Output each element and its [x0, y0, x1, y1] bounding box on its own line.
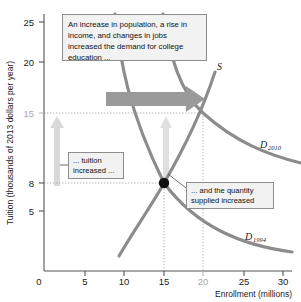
demand-1994-label-main: D	[244, 231, 253, 242]
x-tick-label-15: 15	[159, 276, 170, 287]
demand-shift-callout: An increase in population, a rise in inc…	[62, 14, 207, 61]
supply-demand-chart: 25 20 15 8 5 0 5 10 15 20 25 30 Enrollme…	[0, 0, 301, 302]
demand-1994-curve-label: D 1994	[244, 231, 267, 243]
x-tick-label-10: 10	[119, 276, 130, 287]
initial-equilibrium-dot	[159, 178, 169, 188]
demand-2010-curve-label: D 2010	[259, 139, 282, 151]
x-tick-label-20: 20	[198, 276, 209, 287]
x-tick-label-25: 25	[239, 276, 250, 287]
supply-curve-label: S	[217, 61, 222, 72]
x-tick-label-5: 5	[82, 276, 87, 287]
y-tick-label-25: 25	[23, 17, 34, 28]
demand-2010-label-sub: 2010	[268, 144, 282, 151]
y-tick-label-20: 20	[23, 57, 34, 68]
quantity-increase-callout: ... and the quantity supplied increased	[186, 182, 274, 209]
tuition-increase-callout: ... tuition increased ...	[68, 152, 124, 179]
quantity-leader	[168, 174, 186, 188]
y-tick-label-5: 5	[29, 206, 34, 217]
demand-1994-label-sub: 1994	[253, 236, 267, 243]
x-tick-label-30: 30	[278, 276, 289, 287]
y-axis-title: Tuition (thousands of 2013 dollars per y…	[5, 61, 15, 225]
y-tick-label-8: 8	[29, 178, 34, 189]
demand-2010-label-main: D	[259, 139, 268, 150]
tuition-increase-arrow	[50, 116, 64, 186]
y-tick-label-15: 15	[23, 108, 34, 119]
x-axis-title: Enrollment (millions)	[215, 289, 292, 299]
y-tick-label-0: 0	[36, 276, 41, 287]
demand-shift-arrow	[106, 86, 205, 112]
